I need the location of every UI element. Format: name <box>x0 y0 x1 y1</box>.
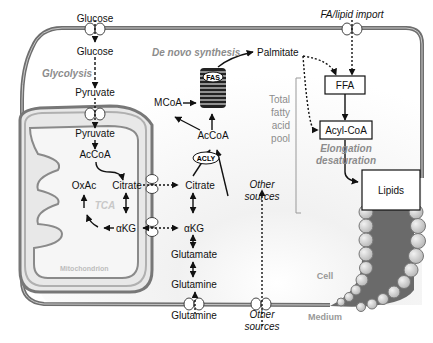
fas-complex: FAS <box>200 68 226 108</box>
glucose-in-label: Glucose <box>77 46 114 57</box>
oxac-label: OxAc <box>72 180 96 191</box>
medium-label: Medium <box>308 312 342 322</box>
pool-label-line1: Total <box>269 94 290 105</box>
glutamate-label: Glutamate <box>171 249 218 260</box>
acly-label: ACLY <box>197 155 216 162</box>
tca-label: TCA <box>95 200 116 211</box>
citrate-mito-label: Citrate <box>112 180 142 191</box>
pyruvate-mito-label: Pyruvate <box>75 128 115 139</box>
mitochondrion-label: Mitochondrion <box>60 265 109 272</box>
other-sources-out-line2: sources <box>244 321 279 332</box>
mcoa-label: MCoA <box>154 97 182 108</box>
pyruvate-cyto-label: Pyruvate <box>75 87 115 98</box>
de-novo-synthesis-label: De novo synthesis <box>152 47 241 58</box>
glucose-out-label: Glucose <box>77 13 114 24</box>
akg-cyto-label: αKG <box>184 223 204 234</box>
ffa-label: FFA <box>336 80 355 91</box>
pool-label-line2: fatty <box>271 107 290 118</box>
acylcoa-label: Acyl-CoA <box>325 125 367 136</box>
elongation-label-line1: Elongation <box>320 143 372 154</box>
other-sources-out-line1: Other <box>249 309 275 320</box>
cell-label: Cell <box>317 271 334 281</box>
glycolysis-label: Glycolysis <box>42 68 92 79</box>
fas-label: FAS <box>206 74 220 81</box>
pool-label-line4: pool <box>271 133 290 144</box>
accoa-mito-label: AcCoA <box>79 149 110 160</box>
lipids-label: Lipids <box>378 185 404 196</box>
other-sources-in-line2: sources <box>244 191 279 202</box>
palmitate-label: Palmitate <box>257 47 299 58</box>
pool-label-line3: acid <box>272 120 290 131</box>
glutamine-out-label: Glutamine <box>171 310 217 321</box>
lipid-metabolism-diagram: FAS ACLY Glucose Glucose Glycolysis Pyru… <box>0 0 433 343</box>
citrate-cyto-label: Citrate <box>185 180 215 191</box>
glutamine-in-label: Glutamine <box>171 279 217 290</box>
elongation-label-line2: desaturation <box>316 155 376 166</box>
akg-mito-label: αKG <box>116 223 136 234</box>
accoa-cyto-label: AcCoA <box>197 130 228 141</box>
acly-enzyme: ACLY <box>193 152 219 164</box>
other-sources-in-line1: Other <box>249 179 275 190</box>
fa-lipid-import-label: FA/lipid import <box>320 9 384 20</box>
